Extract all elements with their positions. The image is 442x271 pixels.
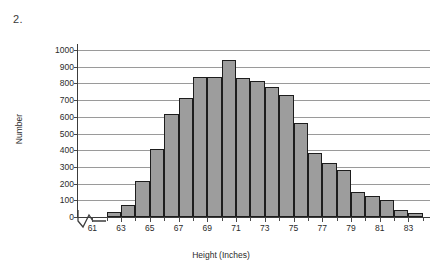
x-axis-tick-mark (423, 217, 424, 221)
x-axis-tick-mark (92, 217, 93, 222)
x-axis-tick-mark (193, 217, 194, 221)
x-axis-tick-label: 71 (224, 224, 248, 233)
y-axis-tick-label: 1000 (44, 46, 74, 55)
x-axis-tick-mark (150, 217, 151, 222)
x-axis-tick-label: 81 (368, 224, 392, 233)
x-axis-tick-mark (179, 217, 180, 222)
x-axis-tick-label: 63 (109, 224, 133, 233)
histogram-bar (121, 205, 135, 217)
histogram-chart: 2. 01002003004005006007008009001000 6163… (0, 0, 442, 271)
x-axis-tick-mark (322, 217, 323, 222)
x-axis-tick-label: 83 (396, 224, 420, 233)
y-axis-tick-labels: 01002003004005006007008009001000 (40, 0, 74, 271)
figure-number: 2. (13, 13, 23, 25)
histogram-bar (279, 95, 293, 217)
x-axis-tick-label: 75 (282, 224, 306, 233)
x-axis-tick-mark (337, 217, 338, 221)
histogram-bar (193, 77, 207, 217)
histogram-bar (351, 192, 365, 217)
x-axis-tick-mark (265, 217, 266, 222)
y-axis-tick-label: 600 (44, 113, 74, 122)
x-axis-tick-mark (394, 217, 395, 221)
x-axis-tick-mark (236, 217, 237, 222)
x-axis-tick-mark (365, 217, 366, 221)
histogram-bar (222, 60, 236, 217)
x-axis-tick-mark (135, 217, 136, 221)
x-axis-tick-label: 65 (138, 224, 162, 233)
x-axis-tick-mark (294, 217, 295, 222)
y-axis-tick-label: 800 (44, 79, 74, 88)
histogram-bar (150, 149, 164, 217)
x-axis-tick-mark (351, 217, 352, 222)
x-axis-tick-labels: 616365676971737577798183 (78, 224, 430, 238)
histogram-bar (308, 153, 322, 217)
x-axis-tick-mark (250, 217, 251, 221)
bar-series (78, 50, 430, 217)
histogram-bar (164, 114, 178, 217)
histogram-bar (337, 170, 351, 217)
x-axis-tick-label: 69 (195, 224, 219, 233)
x-axis-tick-mark (107, 217, 108, 221)
y-axis-tick-label: 500 (44, 130, 74, 139)
x-axis-tick-label: 67 (167, 224, 191, 233)
histogram-bar (365, 196, 379, 217)
y-axis-tick-label: 700 (44, 96, 74, 105)
histogram-bar (179, 98, 193, 217)
y-axis-tick-label: 300 (44, 163, 74, 172)
y-axis-tick-label: 100 (44, 196, 74, 205)
y-axis-tick-label: 400 (44, 146, 74, 155)
x-axis-tick-mark (164, 217, 165, 221)
histogram-bar (207, 77, 221, 217)
x-axis-tick-label: 77 (310, 224, 334, 233)
y-axis-tick-label: 200 (44, 180, 74, 189)
histogram-bar (265, 87, 279, 217)
x-axis-tick-mark (207, 217, 208, 222)
y-axis-tick-label: 900 (44, 63, 74, 72)
x-axis-title: Height (Inches) (0, 250, 442, 260)
histogram-bar (322, 163, 336, 217)
x-axis-tick-mark (408, 217, 409, 222)
x-axis-tick-label: 73 (253, 224, 277, 233)
y-axis-tick-label: 0 (44, 213, 74, 222)
y-axis-title: Number (14, 94, 24, 164)
histogram-bar (294, 123, 308, 217)
x-axis-tick-label: 79 (339, 224, 363, 233)
x-axis-tick-mark (380, 217, 381, 222)
histogram-bar (250, 81, 264, 217)
histogram-bar (236, 78, 250, 217)
x-axis-tick-mark (279, 217, 280, 221)
x-axis-tick-mark (121, 217, 122, 222)
x-axis-tick-label: 61 (80, 224, 104, 233)
histogram-bar (135, 181, 149, 217)
x-axis-tick-mark (308, 217, 309, 221)
histogram-bar (394, 210, 408, 218)
histogram-bar (380, 200, 394, 217)
x-axis-tick-mark (222, 217, 223, 221)
